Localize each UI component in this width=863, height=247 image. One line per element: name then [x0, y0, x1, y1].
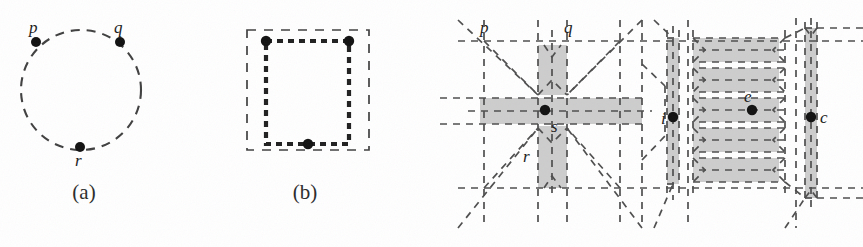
vertex-r	[303, 139, 313, 149]
diag-br	[567, 128, 642, 228]
panel-a: p q r	[0, 0, 220, 247]
label-r-panel-a: r	[75, 152, 82, 169]
caption-b: (b)	[255, 180, 355, 205]
panel-c: s i e c	[440, 0, 863, 247]
vertex-q	[344, 36, 354, 46]
diag-bot-left-in	[484, 128, 538, 188]
c-diag-bottom	[785, 198, 805, 228]
vertex-s	[540, 105, 550, 115]
vertex-c	[806, 112, 816, 122]
label-p-panel-a: p	[29, 19, 38, 36]
i-out-bottom	[654, 184, 673, 228]
diag-tl	[458, 20, 538, 95]
vertex-i	[668, 112, 678, 122]
offset-right-upper	[642, 64, 665, 86]
label-s: s	[551, 118, 558, 135]
vertex-p	[31, 37, 41, 47]
caption-a: (a)	[34, 180, 134, 205]
c-diag-stack	[785, 182, 805, 198]
diag-bot-right-in	[567, 128, 620, 188]
diag-top-left-in	[484, 41, 538, 95]
offset-right-lower	[642, 136, 665, 160]
diag-tr	[567, 20, 642, 95]
panel-b: p q r	[220, 0, 440, 247]
vertex-p	[261, 36, 271, 46]
label-i: i	[661, 110, 666, 127]
dashed-circle	[21, 30, 141, 150]
diag-bl	[458, 128, 538, 228]
c-diag-stack-top	[785, 28, 805, 38]
figure-container: p q r (a) p q r (b)	[0, 0, 863, 247]
label-q-panel-a: q	[114, 19, 123, 36]
label-e: e	[744, 88, 752, 105]
panel-c-canvas	[440, 0, 863, 247]
vertex-q	[115, 37, 125, 47]
i-out-top	[654, 20, 673, 38]
label-c: c	[820, 109, 828, 126]
inner-dashed-rect	[266, 41, 349, 144]
panel-b-canvas	[220, 0, 440, 247]
panel-a-canvas	[0, 0, 220, 247]
gray-bands	[480, 28, 817, 198]
vertex-e	[747, 105, 757, 115]
